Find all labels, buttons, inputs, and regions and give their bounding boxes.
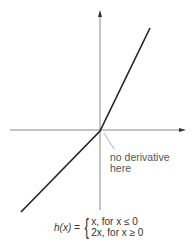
graph-canvas — [0, 0, 195, 244]
y-axis-arrow-icon — [98, 10, 102, 17]
formula-lhs: h(x) = — [54, 222, 80, 233]
function-curve — [21, 28, 150, 212]
no-derivative-label: no derivative here — [110, 152, 170, 174]
annotation-pointer — [104, 133, 114, 149]
formula-case-2: 2x, for x ≥ 0 — [91, 227, 143, 238]
x-axis-arrow-icon — [179, 128, 186, 132]
formula-cases: x, for x ≤ 0 2x, for x ≥ 0 — [91, 216, 143, 238]
formula-case-1: x, for x ≤ 0 — [91, 216, 143, 227]
annotation-line-2: here — [110, 163, 170, 174]
piecewise-formula: h(x) = { x, for x ≤ 0 2x, for x ≥ 0 — [54, 216, 143, 238]
brace-icon: { — [84, 217, 88, 237]
